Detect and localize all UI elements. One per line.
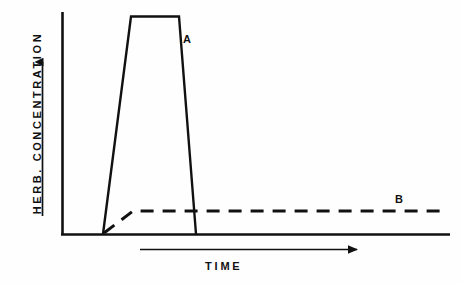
series-label-a: A	[183, 33, 191, 45]
series-label-b: B	[395, 193, 403, 205]
chart-figure: HERB. CONCENTRATION TIME A B	[0, 0, 461, 284]
chart-plot-area	[0, 0, 461, 284]
y-axis-title: HERB. CONCENTRATION	[31, 23, 43, 223]
series-a-curve	[103, 17, 196, 235]
series-b-curve	[104, 211, 445, 233]
x-axis-title: TIME	[205, 260, 242, 272]
